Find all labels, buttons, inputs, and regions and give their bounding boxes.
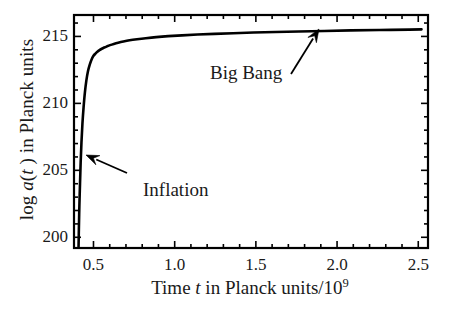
annotation-arrows — [86, 29, 319, 173]
plot-frame — [74, 15, 428, 248]
series-line — [79, 29, 422, 246]
arrow-shaft-big-bang — [291, 38, 313, 74]
plot-area — [0, 0, 451, 312]
axis-ticks — [74, 15, 428, 248]
data-curve — [79, 29, 422, 246]
chart-figure: log a(t ) in Planck units Time t in Plan… — [0, 0, 451, 312]
arrow-shaft-inflation — [96, 159, 127, 173]
